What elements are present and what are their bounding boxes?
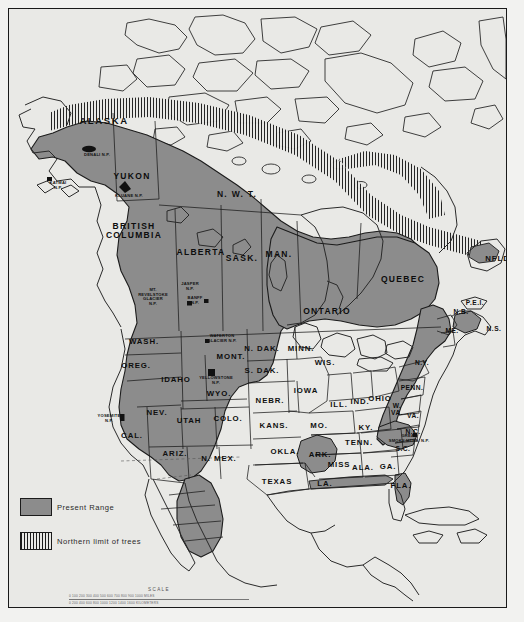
northern-limit-swatch [20, 532, 52, 550]
map-scale: SCALE 0 100 200 300 400 500 600 700 800 … [69, 587, 249, 606]
legend-row-present-range: Present Range [20, 496, 250, 518]
scale-row-kilometers: 0 200 400 600 800 1000 1200 1400 1600 KI… [69, 601, 249, 605]
present-range-label: Present Range [57, 503, 114, 512]
scale-title: SCALE [69, 587, 249, 592]
northern-limit-label: Northern limit of trees [57, 537, 141, 546]
legend-row-northern-limit: Northern limit of trees [20, 530, 250, 552]
scale-miles-ticks: 0 100 200 300 400 500 600 700 800 900 10… [69, 594, 249, 598]
present-range-swatch [20, 498, 52, 516]
scale-row-miles: 0 100 200 300 400 500 600 700 800 900 10… [69, 594, 249, 598]
map-page: ALASKAYUKONN. W. T.BRITISHCOLUMBIAALBERT… [0, 0, 524, 622]
map-frame: ALASKAYUKONN. W. T.BRITISHCOLUMBIAALBERT… [8, 8, 507, 608]
scale-rule [69, 599, 249, 600]
scale-kilometers-ticks: 0 200 400 600 800 1000 1200 1400 1600 KI… [69, 601, 249, 605]
map-legend: Present Range Northern limit of trees [20, 496, 250, 564]
